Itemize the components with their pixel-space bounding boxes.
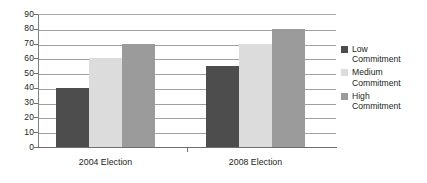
- legend-label-line2: Commitment: [352, 54, 427, 64]
- legend-label-line1: Low: [352, 44, 368, 54]
- y-axis-tick-mark: [34, 29, 38, 30]
- legend-swatch-low-icon: [341, 46, 348, 53]
- y-axis-tick-mark: [34, 58, 38, 59]
- bar-low-1: [56, 88, 89, 147]
- y-axis-tick-mark: [34, 14, 38, 15]
- legend-item-high[interactable]: HighCommitment: [341, 91, 427, 111]
- x-axis-category-label: 2004 Election: [56, 157, 156, 167]
- legend-item-medium[interactable]: MediumCommitment: [341, 67, 427, 87]
- legend-label-line1: Medium: [352, 67, 383, 77]
- legend-label-line2: Commitment: [352, 78, 427, 88]
- y-axis-tick-mark: [34, 103, 38, 104]
- bar-chart: 9080706050403020100 2004 Election2008 El…: [0, 0, 427, 183]
- legend-label-medium: MediumCommitment: [341, 67, 427, 87]
- legend-label-line2: Commitment: [352, 101, 427, 111]
- bar-high-1: [122, 44, 155, 147]
- y-axis-tick-mark: [34, 117, 38, 118]
- legend-label-low: LowCommitment: [341, 44, 427, 64]
- y-axis-tick-mark: [34, 88, 38, 89]
- y-axis-tick-mark: [34, 147, 38, 148]
- chart-legend: LowCommitmentMediumCommitmentHighCommitm…: [341, 44, 427, 114]
- legend-item-low[interactable]: LowCommitment: [341, 44, 427, 64]
- bar-high-2: [272, 29, 305, 147]
- legend-label-line1: High: [352, 91, 370, 101]
- x-axis-category-label: 2008 Election: [206, 157, 306, 167]
- y-axis-tick-mark: [34, 73, 38, 74]
- legend-label-high: HighCommitment: [341, 91, 427, 111]
- bar-low-2: [206, 66, 239, 147]
- bar-medium-1: [89, 58, 122, 147]
- bar-medium-2: [239, 44, 272, 147]
- legend-swatch-high-icon: [341, 93, 348, 100]
- y-axis-tick-mark: [34, 132, 38, 133]
- y-axis-tick-mark: [34, 44, 38, 45]
- x-axis-category-separator-tick: [187, 147, 188, 152]
- legend-swatch-medium-icon: [341, 69, 348, 76]
